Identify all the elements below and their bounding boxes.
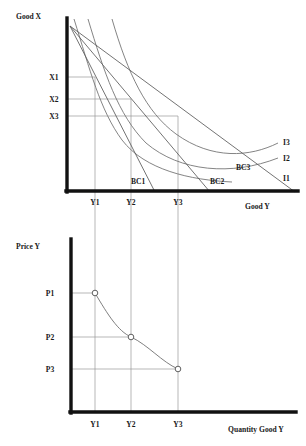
top-panel-x-axis-title: Good Y <box>245 202 270 211</box>
bottom-panel: P1 P2 P3 Y1 Y2 Y3 Price Y Quantity Good … <box>16 239 296 434</box>
indifference-curve-i1 <box>74 19 232 182</box>
budget-constraint-bc2 <box>70 26 210 192</box>
curve-label-i3: I3 <box>283 138 290 147</box>
budget-constraint-bc3 <box>70 26 295 192</box>
curve-label-i2: I2 <box>283 154 290 163</box>
top-x-tick-y2: Y2 <box>126 198 135 207</box>
demand-point-2 <box>128 334 134 340</box>
top-y-tick-x2: X2 <box>49 95 58 104</box>
quantity-droplines <box>95 77 178 413</box>
top-panel: X1 X2 X3 Y1 Y2 Y3 I3 I2 I1 BC1 BC2 BC3 G… <box>16 12 298 211</box>
budget-constraint-bc1 <box>70 26 155 192</box>
curve-label-bc2: BC2 <box>210 177 225 186</box>
indifference-curve-i2 <box>88 19 278 169</box>
bottom-x-tick-y2: Y2 <box>126 420 135 429</box>
bottom-x-tick-y3: Y3 <box>173 420 182 429</box>
top-y-tick-x3: X3 <box>49 112 58 121</box>
demand-point-3 <box>175 366 181 372</box>
economics-figure: X1 X2 X3 Y1 Y2 Y3 I3 I2 I1 BC1 BC2 BC3 G… <box>0 0 306 446</box>
bottom-panel-guides <box>70 293 178 369</box>
bottom-panel-x-axis-title: Quantity Good Y <box>228 425 284 434</box>
curve-label-i1: I1 <box>283 174 290 183</box>
top-x-tick-y1: Y1 <box>90 198 99 207</box>
demand-point-1 <box>92 290 98 296</box>
demand-curve <box>95 293 178 369</box>
bottom-y-tick-p2: P2 <box>46 333 55 342</box>
curve-label-bc1: BC1 <box>131 177 146 186</box>
top-panel-y-axis-title: Good X <box>16 12 42 21</box>
bottom-panel-y-axis-title: Price Y <box>16 242 40 251</box>
bottom-x-tick-y1: Y1 <box>90 420 99 429</box>
top-x-tick-y3: Y3 <box>173 198 182 207</box>
curve-label-bc3: BC3 <box>236 163 251 172</box>
bottom-y-tick-p1: P1 <box>46 289 55 298</box>
figure-page: X1 X2 X3 Y1 Y2 Y3 I3 I2 I1 BC1 BC2 BC3 G… <box>0 0 306 446</box>
top-y-tick-x1: X1 <box>49 73 58 82</box>
bottom-y-tick-p3: P3 <box>46 365 55 374</box>
